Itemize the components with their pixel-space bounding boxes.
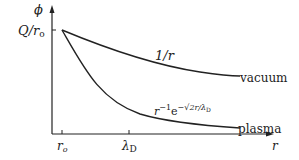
vacuum-formula: 1/r [155, 48, 175, 63]
x-tick-r0-label: ro [57, 139, 68, 154]
y-axis-arrow-icon [50, 5, 55, 13]
plasma-formula: r−1e−√2r/λD [154, 103, 211, 118]
vacuum-label: vacuum [239, 71, 288, 85]
y-tick-label: Q/ro [18, 23, 45, 39]
vacuum-curve [62, 30, 240, 76]
y-axis-label: ϕ [34, 2, 43, 17]
x-axis-label: r [272, 139, 279, 153]
plasma-curve [62, 30, 240, 128]
x-tick-lambda-label: λD [121, 139, 137, 154]
potential-diagram: ϕ r Q/ro ro λD 1/r vacuum r−1e−√2r/λD pl… [0, 0, 299, 160]
plasma-label: plasma [238, 122, 281, 136]
